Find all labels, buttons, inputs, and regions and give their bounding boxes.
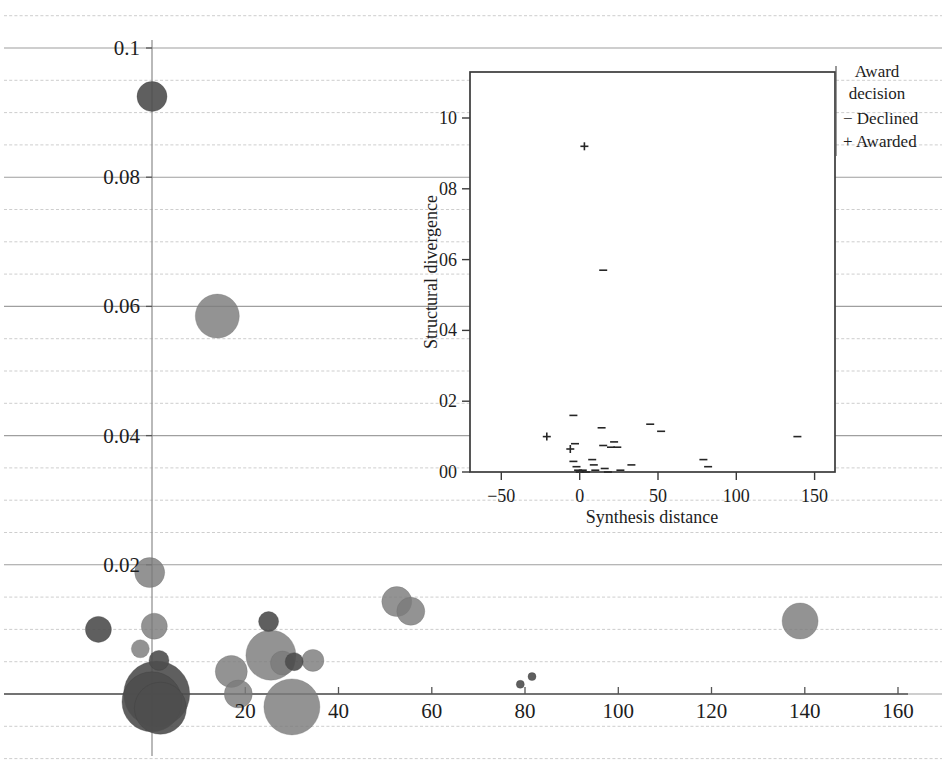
main-x-tick-label: 120 (696, 699, 728, 723)
bubble-marker (137, 82, 167, 112)
inset-x-tick-label: −50 (487, 486, 515, 506)
inset-y-tick-label: 04 (439, 320, 457, 340)
inset-y-tick-label: 08 (439, 179, 457, 199)
inset-x-tick-label: 50 (649, 486, 667, 506)
bubble-marker (285, 653, 303, 671)
main-y-tick-label: 0.06 (103, 294, 140, 318)
inset-y-tick-label: 06 (439, 250, 457, 270)
main-x-tick-label: 40 (328, 699, 349, 723)
legend: Award decision − Declined + Awarded (836, 62, 919, 156)
bubble-marker (134, 682, 186, 734)
main-x-tick-label: 140 (789, 699, 821, 723)
inset-y-tick-label: 00 (439, 462, 457, 482)
inset-x-tick-label: 150 (801, 486, 828, 506)
legend-title-line-1: Award (855, 62, 900, 81)
bubble-marker (397, 597, 425, 625)
main-x-tick-label: 20 (235, 699, 256, 723)
bubble-marker (149, 650, 169, 670)
inset-y-tick-label: 02 (439, 391, 457, 411)
legend-title-line-2: decision (849, 84, 906, 103)
bubble-marker (782, 603, 818, 639)
inset-y-tick-label: 10 (439, 108, 457, 128)
main-x-tick-label: 100 (603, 699, 635, 723)
bubble-chart-figure: 20406080100120140160 0.020.040.060.080.1… (0, 0, 946, 772)
inset-x-tick-label: 0 (575, 486, 584, 506)
main-y-tick-label: 0.1 (114, 36, 140, 60)
inset-x-tick-labels: −50050100150 (487, 486, 828, 506)
bubble-marker (85, 616, 111, 642)
legend-entry-declined[interactable]: − Declined (843, 109, 919, 128)
main-x-tick-label: 160 (882, 699, 914, 723)
bubble-marker (131, 640, 149, 658)
bubble-marker (195, 294, 239, 338)
main-x-tick-label: 80 (515, 699, 536, 723)
bubble-marker (264, 679, 320, 735)
inset-y-tick-labels: 000204060810 (439, 108, 457, 482)
main-y-tick-label: 0.02 (103, 553, 140, 577)
inset-x-tick-label: 100 (723, 486, 750, 506)
figure-root: 20406080100120140160 0.020.040.060.080.1… (0, 0, 946, 772)
bubble-marker (528, 673, 536, 681)
main-x-tick-label: 60 (421, 699, 442, 723)
inset-frame-border (470, 72, 835, 472)
inset-scatter-plot: −50050100150 000204060810 Synthesis dist… (421, 72, 835, 527)
bubble-marker (302, 649, 324, 671)
inset-x-axis-title: Synthesis distance (586, 507, 719, 527)
main-y-tick-label: 0.04 (103, 424, 140, 448)
main-chart-x-tick-labels: 20406080100120140160 (235, 699, 914, 723)
bubble-marker (141, 613, 167, 639)
bubble-marker (516, 680, 524, 688)
legend-entry-awarded[interactable]: + Awarded (843, 132, 917, 151)
main-y-tick-label: 0.08 (103, 165, 140, 189)
bubble-marker (259, 612, 279, 632)
inset-y-axis-title: Structural divergence (421, 195, 441, 349)
main-chart-y-tick-labels: 0.020.040.060.080.1 (103, 36, 140, 577)
